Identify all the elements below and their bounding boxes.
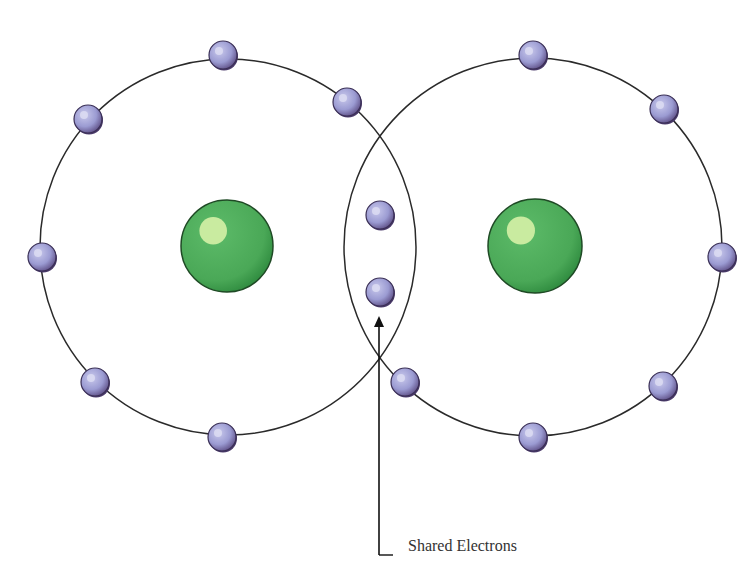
electron — [519, 41, 548, 71]
electron — [209, 41, 238, 71]
electron — [366, 278, 395, 308]
nucleus-1 — [181, 200, 273, 292]
electron — [208, 423, 237, 453]
covalent-bond-diagram — [0, 0, 755, 576]
shared-electrons-label: Shared Electrons — [408, 537, 517, 555]
electron — [28, 243, 57, 273]
electron — [74, 105, 103, 135]
electron — [391, 368, 420, 398]
electron — [519, 423, 548, 453]
nucleus-2 — [488, 199, 582, 293]
electron — [81, 368, 110, 398]
electron-shells — [40, 58, 722, 436]
electron — [333, 88, 362, 118]
electrons — [28, 41, 737, 453]
electron — [366, 201, 395, 231]
arrow-up-icon — [374, 316, 384, 327]
electron — [649, 372, 678, 402]
electron — [708, 243, 737, 273]
electron — [650, 95, 679, 125]
